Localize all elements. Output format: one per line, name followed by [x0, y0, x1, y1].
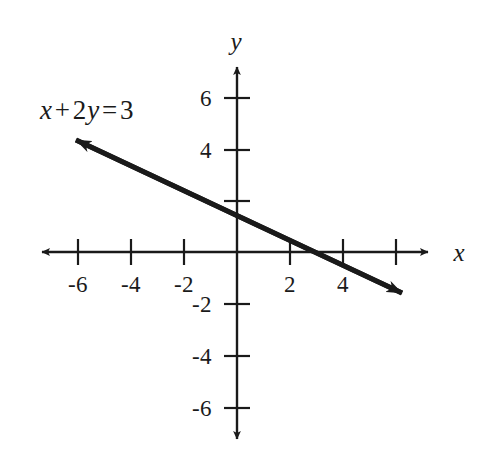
x-tick-label-2: 2: [284, 273, 296, 296]
plotted-line-lower-right-ray: [76, 140, 402, 293]
x-tick-label-4: 4: [337, 273, 349, 296]
y-tick-label-4: 4: [200, 139, 212, 162]
coordinate-plane-svg: [0, 0, 485, 469]
equation-right-hand-side: 3: [120, 95, 134, 125]
y-tick-label-6: 6: [200, 87, 212, 110]
x-axis-label: x: [453, 240, 464, 265]
y-tick-label-minus6: -6: [192, 397, 212, 420]
plotted-line-x-plus-2y-equals-3: [76, 140, 402, 293]
equation-coefficient: 2: [73, 95, 87, 125]
y-tick-label-minus2: -2: [192, 293, 212, 316]
equation-plus-sign: +: [53, 95, 73, 125]
equation-variable-x: x: [40, 95, 53, 125]
x-tick-label-minus6: -6: [68, 273, 88, 296]
y-tick-label-minus4: -4: [192, 345, 212, 368]
x-tick-label-minus4: -4: [121, 273, 141, 296]
equation-variable-y: y: [87, 95, 100, 125]
equation-annotation: x+2y=3: [40, 97, 134, 124]
y-axis-label: y: [230, 29, 241, 54]
equation-equals-sign: =: [100, 95, 120, 125]
graph-figure: -6 -4 -2 2 4 6 4 -2 -4 -6 x y x+2y=3: [0, 0, 485, 469]
